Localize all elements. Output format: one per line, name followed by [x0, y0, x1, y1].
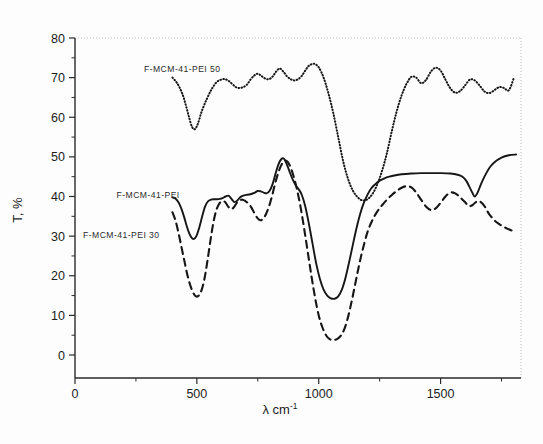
y-tick-label: 30: [51, 230, 65, 244]
x-axis-ticks: [75, 378, 502, 384]
curve-series-2: [172, 161, 516, 340]
curve-series-0: [172, 64, 513, 201]
x-tick-label: 500: [186, 387, 207, 401]
series-label-pei50: F-MCM-41-PEI 50: [144, 64, 220, 74]
y-tick-label: 0: [58, 349, 65, 363]
curve-series-1: [172, 155, 516, 299]
y-tick-label: 40: [51, 190, 65, 204]
y-tick-label: 10: [51, 309, 65, 323]
plot-frame-dotted: [75, 38, 521, 378]
series-label-pei30: F-MCM-41-PEI 30: [83, 230, 159, 240]
y-tick-label: 50: [51, 150, 65, 164]
figure-container: 01020304050607080 050010001500 F-MCM-41-…: [0, 0, 543, 444]
y-axis-title-text: T, %: [10, 197, 25, 223]
y-axis-ticks: [69, 38, 75, 355]
data-curves: [172, 64, 516, 340]
spectra-plot: 01020304050607080 050010001500 F-MCM-41-…: [0, 0, 543, 444]
y-tick-label: 80: [51, 32, 65, 46]
x-axis-title: λ cm-1: [262, 401, 297, 417]
series-annotations: F-MCM-41-PEI 50F-MCM-41-PEIF-MCM-41-PEI …: [83, 64, 220, 240]
x-axis-title-text: λ cm-1: [262, 401, 297, 417]
x-tick-label: 1500: [427, 387, 455, 401]
y-tick-label: 60: [51, 111, 65, 125]
series-label-pei: F-MCM-41-PEI: [117, 190, 180, 200]
y-tick-label: 20: [51, 269, 65, 283]
x-tick-label: 1000: [305, 387, 333, 401]
y-tick-label: 70: [51, 71, 65, 85]
x-tick-label: 0: [72, 387, 79, 401]
x-axis-tick-labels: 050010001500: [72, 387, 455, 401]
y-axis-tick-labels: 01020304050607080: [51, 32, 65, 363]
y-axis-title: T, %: [10, 197, 25, 223]
